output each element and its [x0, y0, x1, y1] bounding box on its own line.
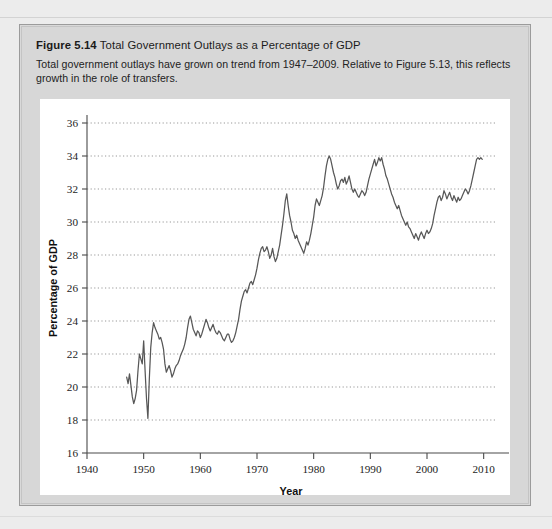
x-tick-label: 2000	[416, 463, 439, 475]
y-axis-ticks: 1618202224262830323436	[67, 117, 87, 459]
y-tick-label: 36	[67, 117, 79, 129]
y-tick-label: 18	[67, 414, 79, 426]
y-tick-label: 22	[67, 348, 78, 360]
y-tick-label: 30	[67, 216, 79, 228]
y-tick-label: 20	[67, 381, 79, 393]
figure-description: Total government outlays have grown on t…	[36, 57, 514, 85]
x-axis-title: Year	[280, 485, 304, 495]
plot-card: 1618202224262830323436 19401950196019701…	[40, 99, 510, 495]
figure-title-line: Figure 5.14 Total Government Outlays as …	[36, 38, 514, 53]
x-tick-label: 1950	[132, 463, 155, 475]
y-tick-label: 34	[67, 150, 79, 162]
x-tick-label: 1940	[76, 463, 99, 475]
page-bottom-rule	[0, 516, 552, 517]
x-tick-label: 1960	[189, 463, 212, 475]
x-tick-label: 2010	[472, 463, 495, 475]
x-tick-label: 1980	[302, 463, 325, 475]
gridlines	[87, 123, 495, 420]
figure-panel: Figure 5.14 Total Government Outlays as …	[19, 24, 531, 506]
x-tick-label: 1970	[246, 463, 269, 475]
y-tick-label: 28	[67, 249, 79, 261]
figure-caption: Figure 5.14 Total Government Outlays as …	[36, 38, 514, 85]
figure-page: Figure 5.14 Total Government Outlays as …	[0, 0, 552, 529]
line-chart: 1618202224262830323436 19401950196019701…	[40, 99, 510, 495]
figure-title: Total Government Outlays as a Percentage…	[100, 39, 361, 51]
y-tick-label: 32	[67, 183, 78, 195]
outlays-series-line	[127, 156, 483, 418]
y-tick-label: 16	[67, 447, 79, 459]
figure-panel-inner: Figure 5.14 Total Government Outlays as …	[21, 26, 529, 504]
x-axis-ticks: 19401950196019701980199020002010	[76, 453, 495, 475]
x-tick-label: 1990	[359, 463, 382, 475]
y-tick-label: 24	[67, 315, 79, 327]
page-top-rule	[0, 17, 552, 18]
y-axis-title: Percentage of GDP	[47, 239, 59, 337]
figure-number: Figure 5.14	[36, 39, 97, 51]
y-tick-label: 26	[67, 282, 79, 294]
